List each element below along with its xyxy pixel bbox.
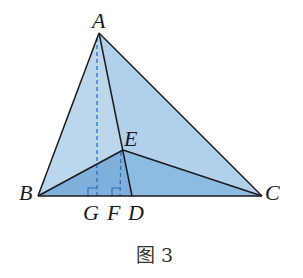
label-a: A — [90, 8, 106, 33]
label-g: G — [83, 200, 99, 225]
label-e: E — [123, 126, 138, 151]
tetrahedron-figure: A B C E G F D 图 3 — [0, 0, 303, 278]
label-d: D — [127, 200, 144, 225]
figure-caption: 图 3 — [136, 244, 173, 266]
label-f: F — [106, 200, 121, 225]
label-c: C — [265, 180, 280, 205]
label-b: B — [19, 180, 32, 205]
